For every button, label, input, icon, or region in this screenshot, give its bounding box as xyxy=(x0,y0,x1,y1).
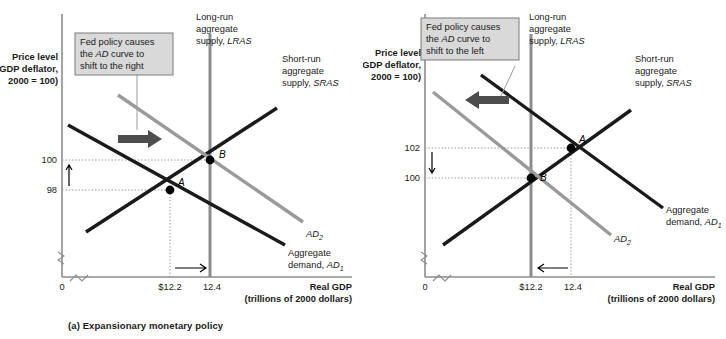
equilibrium-point-a xyxy=(567,144,576,153)
real-gdp-right-arrow xyxy=(175,264,206,272)
x-axis-break-icon xyxy=(433,275,451,281)
ad-as-monetary-policy-figure: A B Fed policy causes the AD curve to sh… xyxy=(0,0,726,339)
x-tick-12-2: $12.2 xyxy=(158,282,181,292)
ad1-curve xyxy=(68,125,285,245)
real-gdp-left-arrow xyxy=(538,264,568,272)
lras-label-line3: supply, LRAS xyxy=(529,36,585,46)
sras-curve xyxy=(86,108,277,232)
x-tick-12-4: 12.4 xyxy=(203,282,221,292)
point-label-b: B xyxy=(540,172,547,183)
sras-label-line1: Short-run xyxy=(282,54,321,64)
y-axis-label-line3: 2000 = 100) xyxy=(8,76,58,86)
origin-label: 0 xyxy=(422,282,427,292)
sras-label-line2: aggregate xyxy=(635,66,677,76)
price-level-up-arrow xyxy=(66,165,72,186)
y-axis-label-line1: Price level xyxy=(375,48,421,58)
x-axis-label-line1: Real GDP xyxy=(310,282,352,292)
chart-contractionary: A B Fed policy causes the AD curve to sh… xyxy=(363,0,726,339)
sras-label-line2: aggregate xyxy=(282,66,324,76)
chart-expansionary: A B Fed policy causes the AD curve to sh… xyxy=(0,0,363,339)
callout-line-2: the AD curve to xyxy=(426,34,490,44)
origin-label: 0 xyxy=(59,282,64,292)
point-label-b: B xyxy=(219,149,226,160)
y-tick-100: 100 xyxy=(404,173,420,183)
lras-label-line1: Long-run xyxy=(529,12,566,22)
lras-label-line2: aggregate xyxy=(529,24,571,34)
callout-line-1: Fed policy causes xyxy=(426,22,501,32)
panel-caption-a: (a) Expansionary monetary policy xyxy=(68,320,223,331)
lras-label-line2: aggregate xyxy=(196,24,238,34)
x-tick-12-2: $12.2 xyxy=(519,282,542,292)
y-tick-98: 98 xyxy=(47,185,57,195)
callout-line-2: the AD curve to xyxy=(80,49,144,59)
y-tick-102: 102 xyxy=(404,143,420,153)
ad1-label-line2: demand, AD1 xyxy=(288,260,344,272)
lras-label-line3: supply, LRAS xyxy=(196,36,252,46)
y-axis-label-line2: (GDP deflator, xyxy=(0,64,58,74)
panel-contractionary: A B Fed policy causes the AD curve to sh… xyxy=(363,0,726,339)
panel-expansionary: A B Fed policy causes the AD curve to sh… xyxy=(0,0,363,339)
y-axis-break-icon xyxy=(58,252,64,264)
sras-label-line1: Short-run xyxy=(635,54,674,64)
equilibrium-point-b xyxy=(527,174,536,183)
sras-label-line3: supply, SRAS xyxy=(635,78,692,88)
y-axis-break-icon xyxy=(421,252,427,264)
y-axis-label-line3: 2000 = 100) xyxy=(371,72,421,82)
y-axis-label-line1: Price level xyxy=(12,52,58,62)
ad1-curve xyxy=(481,75,663,208)
price-level-down-arrow xyxy=(429,152,435,173)
lras-label-line1: Long-run xyxy=(196,12,233,22)
ad1-label-line2: demand, AD1 xyxy=(666,217,722,229)
ad1-label-line1: Aggregate xyxy=(666,205,709,215)
callout-leader-line xyxy=(501,66,515,96)
sras-label-line3: supply, SRAS xyxy=(282,78,339,88)
callout-line-1: Fed policy causes xyxy=(80,37,155,47)
equilibrium-point-a xyxy=(166,186,175,195)
callout-line-3: shift to the left xyxy=(426,46,484,56)
ad1-label-line1: Aggregate xyxy=(288,248,331,258)
ad2-label: AD2 xyxy=(613,234,631,246)
x-axis-break-icon xyxy=(70,275,88,281)
x-tick-12-4: 12.4 xyxy=(564,282,582,292)
y-axis-label-line2: (GDP deflator, xyxy=(363,60,421,70)
x-axis-label-line2: (trillions of 2000 dollars) xyxy=(608,294,715,304)
x-axis-label-line2: (trillions of 2000 dollars) xyxy=(245,294,352,304)
point-label-a: A xyxy=(578,134,586,145)
ad2-curve xyxy=(433,92,611,235)
ad-shift-block-arrow-right xyxy=(118,130,162,148)
equilibrium-point-b xyxy=(206,156,215,165)
point-label-a: A xyxy=(177,177,185,188)
x-axis-label-line1: Real GDP xyxy=(673,282,715,292)
callout-line-3: shift to the right xyxy=(80,61,144,71)
y-tick-100: 100 xyxy=(41,155,57,165)
ad2-label: AD2 xyxy=(305,229,323,241)
